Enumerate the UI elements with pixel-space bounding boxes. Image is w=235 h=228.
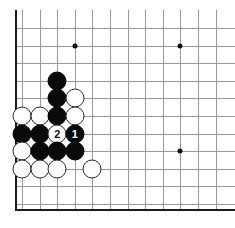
stone-black-b10[interactable] <box>30 124 49 143</box>
grid-line-vertical <box>110 10 111 209</box>
grid-line-vertical <box>92 10 93 209</box>
star-point-k16 <box>178 43 183 48</box>
stone-move-number: 2 <box>54 128 60 139</box>
grid-line-vertical <box>163 10 164 209</box>
stone-white-a8[interactable] <box>13 159 32 178</box>
stone-black-c11[interactable] <box>48 107 67 126</box>
grid-line-horizontal <box>15 28 235 29</box>
grid-line-horizontal <box>15 186 235 187</box>
stone-black-d9[interactable] <box>65 142 84 161</box>
grid-line-vertical <box>145 10 146 209</box>
stone-white-d11[interactable] <box>65 107 84 126</box>
stone-white-a9[interactable] <box>13 142 32 161</box>
go-board-diagram: 21 <box>0 0 235 228</box>
stone-white-b11[interactable] <box>30 107 49 126</box>
grid-line-vertical <box>128 10 129 209</box>
stone-black-move-1[interactable]: 1 <box>65 124 84 143</box>
stone-black-a10[interactable] <box>13 124 32 143</box>
stone-white-b8[interactable] <box>30 159 49 178</box>
stone-black-c12[interactable] <box>48 89 67 108</box>
star-point-k10 <box>178 149 183 154</box>
goban-grid[interactable]: 21 <box>0 0 235 228</box>
stone-black-c9[interactable] <box>48 142 67 161</box>
grid-line-vertical <box>180 10 181 209</box>
grid-line-horizontal <box>15 63 235 64</box>
stone-white-c8[interactable] <box>48 159 67 178</box>
stone-black-c13[interactable] <box>48 71 67 90</box>
grid-line-horizontal <box>15 204 235 205</box>
grid-line-vertical <box>198 10 199 209</box>
stone-black-b9[interactable] <box>30 142 49 161</box>
stone-white-move-2[interactable]: 2 <box>48 124 67 143</box>
stone-white-d12[interactable] <box>65 89 84 108</box>
grid-line-horizontal <box>15 46 235 47</box>
board-edge-bottom <box>15 209 235 211</box>
star-point-d16 <box>72 43 77 48</box>
grid-line-vertical <box>216 10 217 209</box>
stone-move-number: 1 <box>72 128 78 139</box>
stone-white-e8[interactable] <box>83 159 102 178</box>
stone-white-a11[interactable] <box>13 107 32 126</box>
